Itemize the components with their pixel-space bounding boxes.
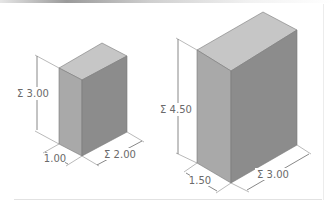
small-box-height-dimension: Σ 3.00 [17, 55, 59, 144]
small-box-width-label: Σ 2.00 [104, 149, 136, 160]
large-box-left-face [197, 50, 231, 183]
small-box [59, 43, 127, 156]
small-box-left-face [59, 68, 82, 156]
large-box-height-label: Σ 4.50 [160, 104, 192, 115]
dimension-diagram: Σ 3.00 1.00 Σ 2.00 Σ 4.50 1.50 [0, 0, 334, 203]
large-box-width-label: Σ 3.00 [257, 169, 289, 180]
small-box-height-label: Σ 3.00 [17, 88, 49, 99]
large-box [197, 12, 297, 183]
large-box-height-dimension: Σ 4.50 [160, 38, 197, 163]
large-box-depth-label: 1.50 [189, 175, 211, 186]
small-box-depth-label: 1.00 [44, 153, 66, 164]
